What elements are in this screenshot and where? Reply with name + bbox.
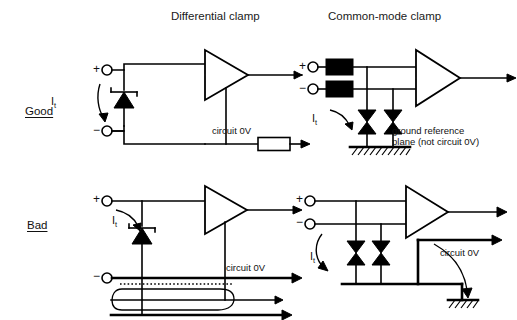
row-label-bad: Bad — [27, 219, 47, 231]
terminal-label-plus-bad-cm: + — [296, 193, 303, 205]
input-terminal-minus — [308, 84, 318, 94]
zener-clamp-diode — [111, 88, 137, 126]
row-label-good: Good — [25, 105, 53, 117]
zener-clamp-diode — [129, 224, 155, 278]
input-terminal-minus — [102, 126, 112, 136]
circuit-0v-label-good-diff: circuit 0V — [212, 125, 251, 136]
wire-minus-to-rail — [112, 131, 205, 144]
panel-good-common-mode-diagram — [288, 48, 517, 178]
figure-canvas: Differential clamp Common-mode clamp Goo… — [0, 0, 517, 320]
transient-current-arrow — [316, 234, 328, 271]
input-terminal-minus — [102, 273, 112, 283]
bottom-bus — [111, 278, 292, 320]
column-title-common-mode: Common-mode clamp — [328, 10, 441, 22]
input-terminal-plus — [102, 196, 112, 206]
transient-current-arrow — [330, 110, 353, 130]
ferrite-bead-minus — [326, 81, 353, 97]
terminal-label-plus-bad-diff: + — [93, 193, 100, 205]
terminal-label-minus-good-cm: − — [299, 82, 306, 94]
amplifier — [406, 186, 507, 238]
current-label-good-cm: It — [312, 112, 317, 127]
tvs-diode-1 — [358, 110, 376, 147]
transient-current-arrow — [98, 84, 108, 122]
terminal-label-minus-bad-cm: − — [296, 216, 303, 228]
input-terminal-plus — [102, 65, 112, 75]
tvs-diode-1 — [347, 241, 365, 284]
ground-symbol — [448, 300, 478, 308]
panel-bad-common-mode-diagram — [288, 186, 517, 316]
ferrite-bead-plus — [326, 59, 353, 75]
terminal-label-minus-good-diff: − — [93, 124, 100, 136]
tvs-diode-2 — [372, 241, 390, 284]
input-terminal-plus — [308, 62, 318, 72]
input-terminal-plus — [305, 196, 315, 206]
ground-bus — [342, 284, 462, 300]
wire-plus-to-amp — [112, 64, 205, 70]
current-label-good-diff: It — [51, 95, 56, 110]
ground-reference-plane — [350, 147, 410, 155]
circuit-0v-label-bad-cm: circuit 0V — [440, 247, 479, 258]
amplifier — [416, 50, 516, 106]
circuit-0v-rail — [112, 273, 302, 283]
terminal-label-plus-good-diff: + — [93, 63, 100, 75]
input-terminal-minus — [305, 219, 315, 229]
circuit-0v-rail — [418, 235, 502, 284]
circuit-0v-label-bad-diff: circuit 0V — [226, 262, 265, 273]
terminal-label-minus-bad-diff: − — [93, 270, 100, 282]
ground-reference-note: ground reference plane (not circuit 0V) — [392, 125, 479, 147]
column-title-differential: Differential clamp — [171, 10, 260, 22]
current-label-bad-cm: It — [310, 250, 315, 265]
current-label-bad-diff: It — [112, 214, 117, 229]
terminal-label-plus-good-cm: + — [299, 60, 306, 72]
